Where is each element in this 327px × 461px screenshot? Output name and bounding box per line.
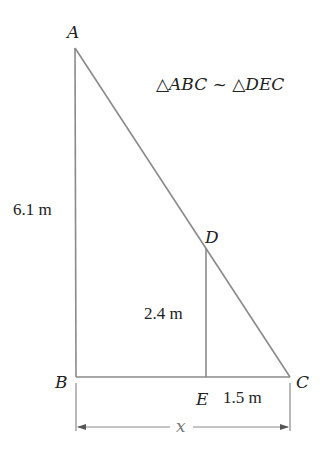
arrow-left-icon xyxy=(77,424,86,430)
similarity-statement: △ABC ~ △DEC xyxy=(156,74,284,94)
segment-ab xyxy=(75,48,76,377)
measurement-ec: 1.5 m xyxy=(223,388,262,407)
label-c: C xyxy=(296,372,309,392)
arrow-right-icon xyxy=(280,424,289,430)
measurement-bc: x xyxy=(176,416,186,436)
segment-ac xyxy=(75,48,290,377)
label-a: A xyxy=(65,22,79,42)
triangle-abc xyxy=(75,48,290,377)
measurement-de: 2.4 m xyxy=(144,304,183,323)
label-d: D xyxy=(204,227,219,247)
measurement-ab: 6.1 m xyxy=(13,200,52,219)
label-e: E xyxy=(195,389,209,409)
similar-triangles-diagram: A B C D E △ABC ~ △DEC 6.1 m 2.4 m 1.5 m … xyxy=(0,0,327,461)
label-b: B xyxy=(54,372,68,392)
